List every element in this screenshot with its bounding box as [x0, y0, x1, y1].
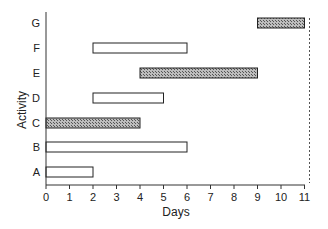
y-tick-labels: ABCDEFG — [31, 17, 40, 178]
x-axis-label: Days — [162, 205, 189, 219]
x-tick-label: 1 — [66, 191, 72, 203]
x-tick-label: 8 — [231, 191, 237, 203]
bars-layer — [46, 18, 305, 177]
x-tick-label: 0 — [43, 191, 49, 203]
x-tick-label: 2 — [90, 191, 96, 203]
y-tick-label-a: A — [33, 166, 41, 178]
bar-activity-c — [46, 118, 140, 128]
y-tick-label-e: E — [33, 67, 40, 79]
x-tick-label: 11 — [299, 191, 310, 203]
bar-activity-b — [46, 142, 187, 152]
x-tick-label: 5 — [160, 191, 166, 203]
y-axis-label: Activity — [15, 91, 29, 129]
x-tick-label: 6 — [184, 191, 190, 203]
bar-activity-f — [93, 43, 187, 53]
x-tick-label: 10 — [275, 191, 287, 203]
bar-activity-e — [140, 68, 258, 78]
x-tick-labels: 01234567891011 — [43, 185, 310, 203]
bar-activity-g — [258, 18, 305, 28]
y-tick-label-c: C — [32, 117, 40, 129]
y-tick-label-g: G — [31, 17, 40, 29]
x-tick-label: 3 — [113, 191, 119, 203]
bar-activity-d — [93, 93, 164, 103]
gantt-chart: 01234567891011 ABCDEFG Days Activity — [0, 0, 328, 229]
y-tick-label-f: F — [33, 42, 40, 54]
x-tick-label: 9 — [254, 191, 260, 203]
y-tick-label-b: B — [33, 141, 40, 153]
y-tick-label-d: D — [32, 92, 40, 104]
bar-activity-a — [46, 167, 93, 177]
x-tick-label: 4 — [137, 191, 143, 203]
x-tick-label: 7 — [207, 191, 213, 203]
